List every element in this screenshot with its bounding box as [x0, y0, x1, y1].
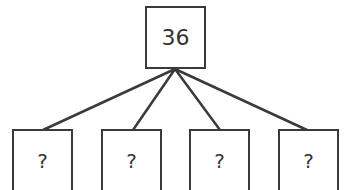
- child-node-box-1: ?: [12, 129, 73, 190]
- edge-root-child-4: [175, 69, 307, 130]
- child-node-value: ?: [303, 149, 314, 173]
- root-node-value: 36: [162, 25, 190, 50]
- factor-tree-diagram: 36 ? ? ? ?: [0, 0, 345, 190]
- child-node-box-4: ?: [278, 129, 339, 190]
- child-node-box-3: ?: [189, 129, 250, 190]
- root-node-box: 36: [145, 6, 206, 69]
- child-node-box-2: ?: [101, 129, 162, 190]
- child-node-value: ?: [214, 149, 225, 173]
- child-node-value: ?: [37, 149, 48, 173]
- child-node-value: ?: [126, 149, 137, 173]
